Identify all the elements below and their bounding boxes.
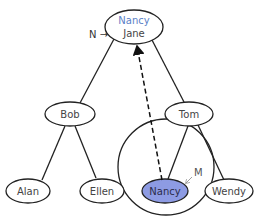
svg-text:Wendy: Wendy [212,186,246,197]
node-wendy: Wendy [205,179,253,203]
svg-text:Tom: Tom [178,109,199,120]
marker-m-label: M [194,167,203,178]
svg-text:Bob: Bob [60,109,79,120]
svg-text:Alan: Alan [17,186,39,197]
dashed-arrow [137,46,162,180]
node-ellen: Ellen [80,179,124,203]
node-nancy-highlighted: Nancy [142,179,188,203]
node-alan: Alan [6,179,50,203]
tree-diagram: Nancy Jane N → Bob Tom Alan Ellen Nancy … [0,0,265,223]
edge-root-tom [152,40,184,102]
node-bob: Bob [45,102,95,126]
node-tom: Tom [165,102,213,126]
pointer-n-label: N → [89,29,108,40]
edge-root-bob [80,39,114,103]
root-top-label: Nancy [118,15,149,26]
svg-text:Nancy: Nancy [149,186,180,197]
edge-bob-ellen [75,126,96,178]
marker-m-arrow [186,177,192,183]
edge-tom-nancy [168,126,188,179]
edge-bob-alan [42,126,65,180]
svg-text:Ellen: Ellen [90,186,114,197]
root-node: Nancy Jane [105,10,163,44]
root-bottom-label: Jane [122,28,145,39]
